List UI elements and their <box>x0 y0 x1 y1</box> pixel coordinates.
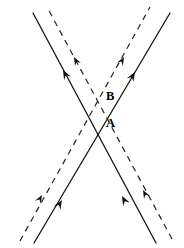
intersection-label-b: B <box>106 89 114 103</box>
crossing-lines-diagram: B A <box>0 0 184 248</box>
intersection-label-a: A <box>106 116 115 130</box>
figure-container: B A <box>0 0 184 248</box>
